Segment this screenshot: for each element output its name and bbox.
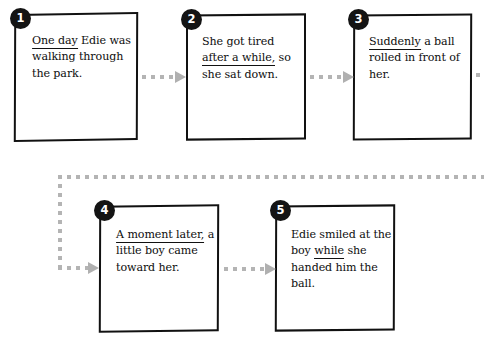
story-text-1: One day Edie was walking through the par… (32, 33, 132, 82)
arrowhead-icon (265, 263, 276, 275)
step-number-badge-5: 5 (270, 200, 291, 221)
story-text-3: Suddenly a ball rolled in front of her. (369, 34, 469, 83)
connector-step3-to-step4-entry (58, 263, 99, 272)
underlined-phrase-4: A moment later, (116, 228, 204, 243)
connector-wrap-vertical-segment (58, 175, 62, 269)
underlined-phrase-3: Suddenly (369, 35, 421, 50)
story-text-4: A moment later, a little boy came toward… (116, 227, 218, 276)
story-sequence-diagram: One day Edie was walking through the par… (0, 0, 484, 348)
arrowhead-icon (88, 262, 99, 274)
connector-wrap-horizontal-segment (58, 175, 484, 179)
underlined-phrase-1: One day (32, 34, 78, 49)
step-number-badge-3: 3 (348, 9, 369, 30)
dotted-line (58, 266, 88, 270)
underlined-phrase-5: while (314, 244, 344, 259)
story-box-1: One day Edie was walking through the par… (14, 12, 138, 142)
arrowhead-icon (175, 71, 186, 83)
story-text-5: Edie smiled at the boy while she handed … (291, 227, 395, 293)
dotted-line (142, 75, 174, 79)
arrowhead-icon (343, 71, 354, 83)
connector-step3-exit-segment (476, 73, 484, 77)
story-box-4: A moment later, a little boy came toward… (99, 204, 219, 332)
connector-step1-to-step2 (142, 72, 186, 81)
step-number-badge-4: 4 (94, 200, 115, 221)
story-text-2: She got tired after a while, so she sat … (202, 34, 302, 83)
story-box-2: She got tired after a while, so she sat … (186, 13, 306, 140)
dotted-line (310, 75, 342, 79)
step-number-badge-2: 2 (181, 9, 202, 30)
connector-step4-to-step5 (224, 264, 276, 273)
story-text-2-lead: She got tired (202, 35, 274, 48)
dotted-line (224, 267, 264, 271)
story-box-3: Suddenly a ball rolled in front of her. (353, 13, 472, 140)
connector-step2-to-step3 (310, 72, 354, 81)
step-number-badge-1: 1 (10, 8, 31, 29)
story-box-5: Edie smiled at the boy while she handed … (275, 204, 395, 331)
underlined-phrase-2: after a while, (202, 51, 275, 66)
